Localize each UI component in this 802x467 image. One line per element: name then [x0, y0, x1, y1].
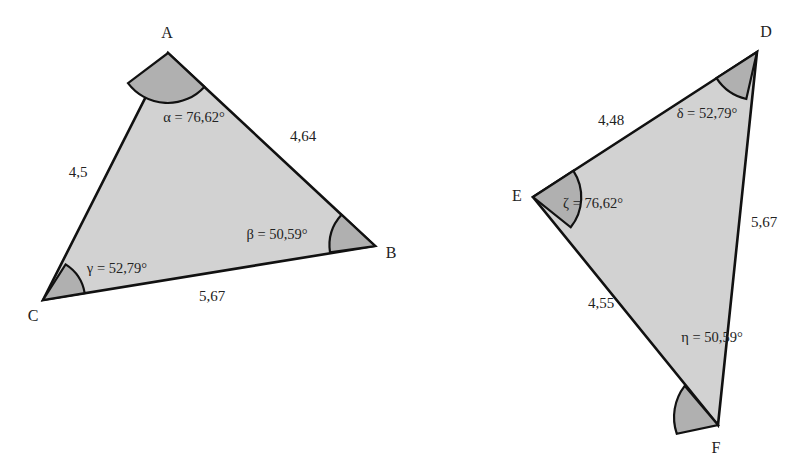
angle-alpha-arc — [128, 53, 204, 103]
side-label-ed: 4,48 — [598, 113, 624, 128]
side-label-cb: 5,67 — [199, 289, 225, 304]
vertex-label-a: A — [161, 25, 173, 41]
angle-label-beta: β = 50,59° — [246, 227, 307, 242]
vertex-label-e: E — [512, 188, 522, 204]
vertex-label-d: D — [760, 24, 772, 40]
vertex-label-b: B — [386, 245, 397, 261]
geometry-figure-canvas: A B C 4,5 4,64 5,67 α = 76,62° β = 50,59… — [0, 0, 802, 467]
side-label-ca: 4,5 — [69, 165, 88, 180]
angle-beta-arc — [330, 215, 375, 253]
side-label-ab: 4,64 — [290, 129, 316, 144]
vertex-label-f: F — [712, 440, 721, 456]
angle-label-gamma: γ = 52,79° — [87, 261, 147, 276]
angle-label-delta: δ = 52,79° — [677, 106, 738, 121]
side-label-ef: 4,55 — [588, 296, 614, 311]
angle-label-zeta: ζ = 76,62° — [563, 196, 623, 211]
angle-label-eta: η = 50,59° — [681, 330, 742, 345]
side-label-df: 5,67 — [751, 215, 777, 230]
geometry-figure-svg — [0, 0, 802, 467]
vertex-label-c: C — [28, 308, 39, 324]
angle-label-alpha: α = 76,62° — [163, 110, 224, 125]
